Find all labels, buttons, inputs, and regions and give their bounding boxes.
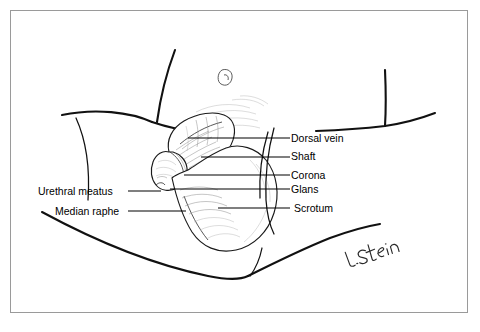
right-lower-thigh-contour — [248, 224, 380, 276]
navel-icon — [218, 69, 232, 85]
label-shaft: Shaft — [291, 151, 316, 162]
anatomy-illustration — [0, 0, 480, 332]
left-hip-contour — [62, 111, 152, 122]
label-corona: Corona — [291, 170, 325, 181]
navel-inner-fold — [224, 75, 228, 80]
label-glans: Glans — [291, 184, 318, 195]
anatomical-figure: Dorsal vein Shaft Corona Glans Scrotum U… — [0, 0, 480, 332]
groin-crease-right — [316, 113, 435, 131]
label-urethral-meatus: Urethral meatus — [38, 186, 113, 197]
label-median-raphe: Median raphe — [55, 206, 119, 217]
label-dorsal-vein: Dorsal vein — [291, 133, 344, 144]
abdominal-midline-left — [157, 50, 175, 122]
umbilicus — [218, 69, 232, 85]
artist-signature — [345, 237, 400, 267]
right-hip-contour — [385, 70, 386, 126]
label-scrotum: Scrotum — [294, 203, 333, 214]
